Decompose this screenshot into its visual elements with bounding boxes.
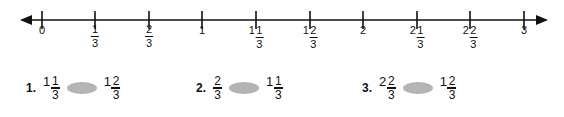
mixed-number: 223 bbox=[379, 75, 396, 101]
fraction: 23 bbox=[447, 75, 456, 101]
numerator: 2 bbox=[387, 75, 396, 87]
fraction: 13 bbox=[255, 25, 263, 50]
numerator: 1 bbox=[255, 25, 263, 37]
mixed-number: 123 bbox=[104, 75, 121, 101]
tick-value: 1 bbox=[199, 24, 205, 36]
comparison-answer-oval[interactable] bbox=[403, 82, 433, 94]
exercise-number: 3. bbox=[362, 82, 372, 94]
whole-part: 1 bbox=[266, 75, 274, 89]
comparison-answer-oval[interactable] bbox=[229, 82, 259, 94]
mixed-number: 113 bbox=[249, 24, 264, 50]
mixed-number: 23 bbox=[145, 24, 153, 49]
fraction: 13 bbox=[416, 25, 424, 50]
tick-label: 23 bbox=[145, 24, 153, 49]
fraction: 23 bbox=[387, 75, 396, 101]
numerator: 2 bbox=[213, 75, 222, 87]
exercise-number: 2. bbox=[196, 82, 206, 94]
denominator: 3 bbox=[213, 89, 222, 101]
denominator: 3 bbox=[112, 89, 121, 101]
comparison-answer-oval[interactable] bbox=[67, 82, 97, 94]
numerator: 2 bbox=[309, 25, 317, 37]
tick-label: 0 bbox=[39, 24, 45, 36]
mixed-number: 23 bbox=[213, 75, 222, 101]
mixed-number: 213 bbox=[410, 24, 425, 50]
denominator: 3 bbox=[416, 38, 424, 50]
numerator: 1 bbox=[416, 25, 424, 37]
mixed-number: 13 bbox=[91, 24, 99, 49]
tick-label: 13 bbox=[91, 24, 99, 49]
fraction: 13 bbox=[91, 24, 99, 49]
fraction: 23 bbox=[469, 25, 477, 50]
numerator: 2 bbox=[145, 24, 153, 36]
exercise-row: 1.1131232.231133.223123 bbox=[0, 60, 564, 117]
numerator: 1 bbox=[91, 24, 99, 36]
denominator: 3 bbox=[91, 37, 99, 49]
fraction: 23 bbox=[309, 25, 317, 50]
denominator: 3 bbox=[469, 38, 477, 50]
exercise-item: 3.223123 bbox=[362, 74, 456, 102]
whole-part: 1 bbox=[440, 75, 448, 89]
denominator: 3 bbox=[145, 37, 153, 49]
denominator: 3 bbox=[448, 89, 457, 101]
mixed-number: 113 bbox=[43, 75, 60, 101]
whole-part: 2 bbox=[410, 24, 417, 36]
numerator: 1 bbox=[51, 75, 60, 87]
exercise-item: 2.23113 bbox=[196, 74, 283, 102]
numerator: 2 bbox=[112, 75, 121, 87]
tick-label: 123 bbox=[303, 24, 318, 50]
tick-label: 223 bbox=[463, 24, 478, 50]
whole-part: 1 bbox=[43, 75, 51, 89]
exercise-item: 1.113123 bbox=[26, 74, 120, 102]
fraction: 23 bbox=[145, 24, 153, 49]
mixed-number: 123 bbox=[303, 24, 318, 50]
tick-labels: 01323111312322132233 bbox=[0, 0, 564, 60]
whole-part: 1 bbox=[303, 24, 310, 36]
numerator: 1 bbox=[274, 75, 283, 87]
denominator: 3 bbox=[274, 89, 283, 101]
tick-label: 1 bbox=[199, 24, 205, 36]
whole-part: 2 bbox=[463, 24, 470, 36]
denominator: 3 bbox=[387, 89, 396, 101]
whole-part: 1 bbox=[104, 75, 112, 89]
tick-value: 3 bbox=[521, 24, 527, 36]
tick-label: 2 bbox=[360, 24, 366, 36]
numerator: 2 bbox=[448, 75, 457, 87]
mixed-number: 123 bbox=[440, 75, 457, 101]
fraction: 23 bbox=[111, 75, 120, 101]
tick-value: 2 bbox=[360, 24, 366, 36]
fraction: 23 bbox=[213, 75, 222, 101]
fraction: 13 bbox=[51, 75, 60, 101]
mixed-number: 223 bbox=[463, 24, 478, 50]
number-line: 01323111312322132233 bbox=[0, 0, 564, 60]
tick-label: 3 bbox=[521, 24, 527, 36]
fraction: 13 bbox=[274, 75, 283, 101]
denominator: 3 bbox=[255, 38, 263, 50]
denominator: 3 bbox=[51, 89, 60, 101]
numerator: 2 bbox=[469, 25, 477, 37]
tick-value: 0 bbox=[39, 24, 45, 36]
whole-part: 2 bbox=[379, 75, 387, 89]
whole-part: 1 bbox=[249, 24, 256, 36]
exercise-number: 1. bbox=[26, 82, 36, 94]
mixed-number: 113 bbox=[266, 75, 283, 101]
tick-label: 213 bbox=[410, 24, 425, 50]
tick-label: 113 bbox=[249, 24, 264, 50]
denominator: 3 bbox=[309, 38, 317, 50]
